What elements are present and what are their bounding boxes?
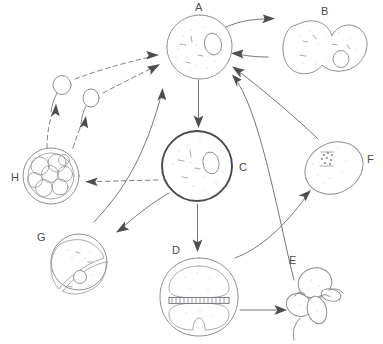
swarmer-cell-1 bbox=[51, 76, 71, 113]
arrow-h-to-swarmer-2 bbox=[73, 116, 88, 148]
stage-d-label: D bbox=[172, 244, 180, 256]
stage-g-label: G bbox=[37, 231, 46, 243]
arrow-e-to-f bbox=[235, 190, 311, 258]
stage-h-label: H bbox=[11, 171, 19, 183]
stage-a-cell: A bbox=[167, 1, 232, 79]
arrow-c-to-g bbox=[116, 193, 169, 233]
diagram-canvas: A bbox=[0, 0, 383, 344]
stage-f-label: F bbox=[367, 153, 374, 165]
swarmer-cell-2 bbox=[81, 89, 99, 124]
arrow-b-to-a bbox=[231, 50, 268, 59]
arrow-h-to-swarmer-1 bbox=[47, 104, 60, 149]
arrow-c-to-h bbox=[85, 177, 158, 186]
arrow-a-to-c bbox=[194, 80, 204, 128]
stage-c-cell: C bbox=[162, 131, 247, 201]
stage-b-cell: B bbox=[283, 5, 367, 74]
stage-e-cell: E bbox=[283, 254, 343, 340]
arrow-f-to-a bbox=[232, 67, 318, 140]
arrow-e-to-a bbox=[232, 75, 294, 281]
life-cycle-diagram: A bbox=[0, 0, 383, 344]
stage-c-label: C bbox=[239, 161, 247, 173]
arrow-swarmer-2-to-a bbox=[103, 64, 160, 93]
arrow-d-to-e bbox=[240, 305, 287, 315]
stage-d-cell: D bbox=[160, 244, 238, 336]
arrow-a-to-b bbox=[226, 14, 275, 27]
arrow-swarmer-1-to-a bbox=[75, 51, 159, 79]
arrow-c-to-d bbox=[193, 204, 203, 252]
stage-a-label: A bbox=[195, 1, 203, 13]
stage-h-cell: H bbox=[11, 148, 79, 204]
stage-b-label: B bbox=[321, 5, 329, 17]
stage-e-label: E bbox=[289, 254, 297, 266]
stage-g-cell: G bbox=[37, 231, 107, 294]
